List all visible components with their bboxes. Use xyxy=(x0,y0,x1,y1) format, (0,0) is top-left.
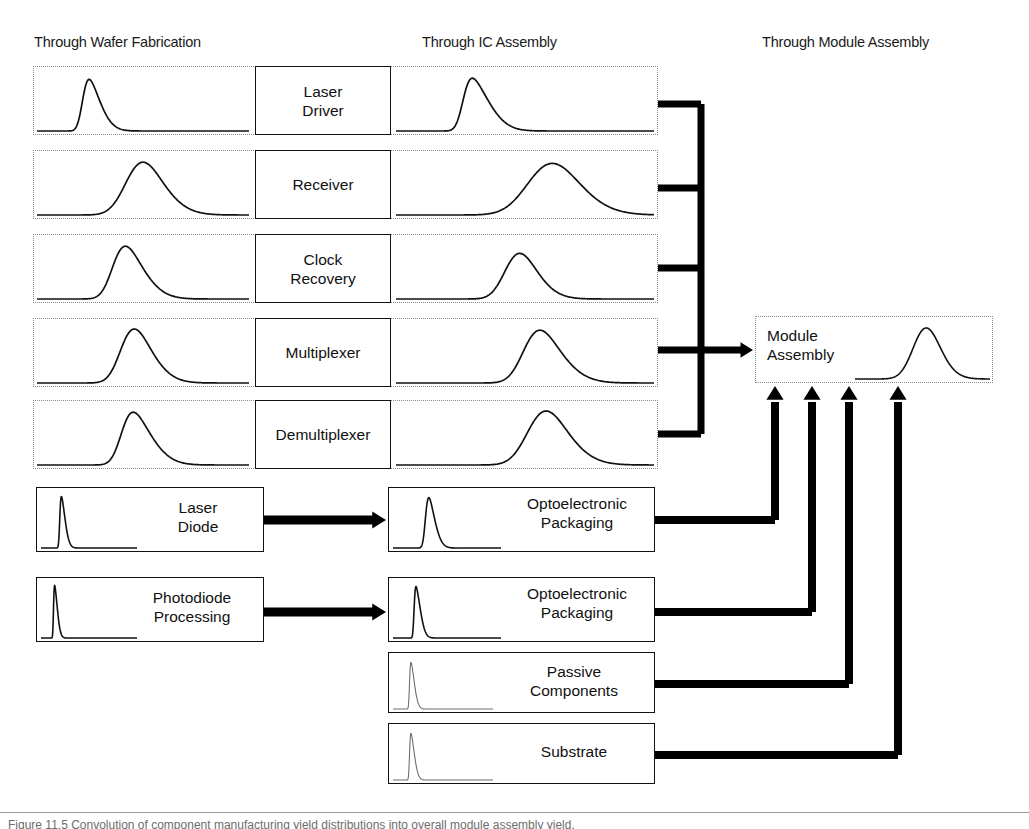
yield-distribution-curve xyxy=(37,153,249,216)
component-label-clock-recovery: Clock Recovery xyxy=(255,250,391,288)
yield-distribution-curve xyxy=(393,726,493,781)
arrowhead-ic-bus-to-module xyxy=(741,342,754,358)
component-label-photodiode-processing: Photodiode Processing xyxy=(126,588,258,626)
yield-distribution-curve xyxy=(37,69,249,132)
component-label-optoelectronic-packaging-laser: Optoelectronic Packaging xyxy=(503,494,651,532)
yield-distribution-curve xyxy=(41,580,137,639)
component-label-substrate: Substrate xyxy=(498,742,650,761)
yield-distribution-curve xyxy=(393,655,493,710)
yield-distribution-curve xyxy=(393,490,501,549)
component-label-receiver: Receiver xyxy=(255,175,391,194)
component-label-laser-driver: Laser Driver xyxy=(255,82,391,120)
yield-distribution-curve xyxy=(396,237,654,300)
arrowhead-feed-laser-diode-to-packaging xyxy=(372,511,386,528)
yield-distribution-curve xyxy=(393,580,501,639)
component-label-multiplexer: Multiplexer xyxy=(255,343,391,362)
yield-distribution-curve xyxy=(396,69,654,132)
yield-distribution-curve xyxy=(37,321,249,384)
arrowhead-feed-optoelectronic-laser xyxy=(766,386,783,400)
yield-distribution-curve xyxy=(37,237,249,300)
footer-divider xyxy=(0,812,1029,813)
component-label-passive-components: Passive Components xyxy=(498,662,650,700)
yield-distribution-curve xyxy=(37,403,249,466)
arrowhead-feed-substrate xyxy=(889,386,906,400)
arrowhead-feed-photodiode-to-packaging xyxy=(372,603,386,620)
figure-caption: Figure 11.5 Convolution of component man… xyxy=(8,818,1023,829)
yield-distribution-curve xyxy=(396,153,654,216)
component-label-optoelectronic-packaging-photodiode: Optoelectronic Packaging xyxy=(503,584,651,622)
arrowhead-feed-passive-components xyxy=(840,386,857,400)
figure-canvas: Through Wafer Fabrication Through IC Ass… xyxy=(0,0,1029,829)
component-label-demultiplexer: Demultiplexer xyxy=(255,425,391,444)
yield-distribution-curve xyxy=(396,403,654,466)
arrowhead-feed-optoelectronic-photodiode xyxy=(803,386,820,400)
component-label-laser-diode: Laser Diode xyxy=(140,498,256,536)
yield-distribution-curve xyxy=(396,321,654,384)
yield-distribution-curve xyxy=(41,490,137,549)
component-label-module-assembly: Module Assembly xyxy=(767,326,877,364)
